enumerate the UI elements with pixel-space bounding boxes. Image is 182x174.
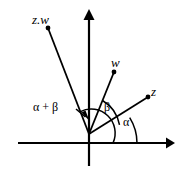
vector-zw xyxy=(46,26,89,134)
imaginary-axis-arrowhead xyxy=(84,9,95,20)
alpha-arc xyxy=(130,118,137,143)
real-axis-arrowhead xyxy=(166,138,175,149)
vector-z-label: z xyxy=(151,85,156,98)
vector-z-endpoint-dot xyxy=(146,95,151,100)
vector-z-line xyxy=(89,97,148,134)
vector-z xyxy=(89,95,150,134)
vector-w xyxy=(89,70,116,134)
vector-zw-line xyxy=(48,28,89,134)
vector-w-line xyxy=(89,72,114,134)
alpha-label: α xyxy=(123,116,129,128)
real-axis xyxy=(18,138,175,149)
beta-label: β xyxy=(104,101,110,113)
complex-multiplication-diagram: z.w w z α + β β α xyxy=(0,0,182,174)
vector-w-label: w xyxy=(111,56,120,69)
vector-w-endpoint-dot xyxy=(112,70,117,75)
alpha-plus-beta-label: α + β xyxy=(33,101,58,113)
vector-zw-label: z.w xyxy=(32,13,49,26)
